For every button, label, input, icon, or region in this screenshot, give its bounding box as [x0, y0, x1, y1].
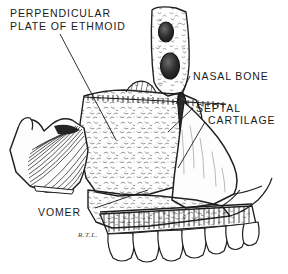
tooth: [243, 222, 260, 246]
anatomy-drawing: [0, 0, 288, 274]
tooth: [205, 226, 227, 254]
frontal-process: [151, 7, 189, 96]
foramen-upper: [159, 22, 174, 42]
label-perpendicular-line1: PERPENDICULAR: [10, 7, 126, 20]
tooth: [133, 231, 159, 262]
tooth: [108, 233, 134, 261]
artist-signature: R.T.L.: [78, 231, 98, 239]
label-vomer: VOMER: [38, 206, 81, 219]
tooth: [158, 230, 183, 261]
foramen-lower: [161, 53, 180, 79]
label-septal-cartilage-line2: CARTILAGE: [208, 114, 275, 127]
label-perpendicular-line2: PLATE OF ETHMOID: [10, 20, 126, 33]
label-nasal-bone: NASAL BONE: [193, 70, 269, 83]
label-perpendicular-plate-of-ethmoid: PERPENDICULAR PLATE OF ETHMOID: [10, 7, 126, 33]
anatomical-figure: PERPENDICULAR PLATE OF ETHMOID NASAL BON…: [0, 0, 288, 274]
sphenoid-pterygoid-structure: [10, 118, 88, 194]
tooth: [182, 228, 206, 258]
